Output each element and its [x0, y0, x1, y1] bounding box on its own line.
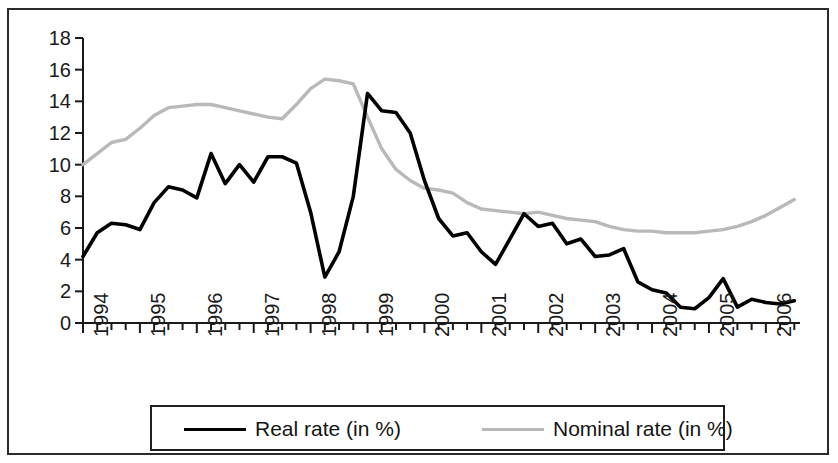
y-axis-tick-label: 0: [37, 313, 71, 333]
legend-line-swatch-nominal-icon: [482, 428, 544, 431]
y-axis-tick-label: 6: [37, 218, 71, 238]
y-axis-tick-label: 14: [37, 91, 71, 111]
y-axis-tick-label: 10: [37, 155, 71, 175]
y-axis-tick-label: 18: [37, 28, 71, 48]
x-axis-tick-label: 2003: [603, 293, 623, 338]
x-axis-tick-label: 1995: [148, 293, 168, 338]
y-axis-tick-label: 8: [37, 186, 71, 206]
chart-legend: Real rate (in %) Nominal rate (in %): [150, 405, 725, 451]
x-axis-tick-label: 1997: [262, 293, 282, 338]
x-axis-tick-label: 2001: [489, 293, 509, 338]
legend-label-nominal-rate: Nominal rate (in %): [553, 417, 733, 441]
y-axis-tick-label: 12: [37, 123, 71, 143]
legend-label-real-rate: Real rate (in %): [255, 417, 401, 441]
figure-frame: [7, 8, 829, 455]
x-axis-tick-label: 2004: [660, 293, 680, 338]
y-axis-tick-label: 4: [37, 250, 71, 270]
legend-entry-nominal-rate: Nominal rate (in %): [482, 415, 733, 443]
x-axis-tick-label: 2005: [717, 293, 737, 338]
y-axis-tick-label: 2: [37, 281, 71, 301]
x-axis-tick-label: 2006: [774, 293, 794, 338]
legend-entry-real-rate: Real rate (in %): [184, 415, 401, 443]
legend-line-swatch-real-icon: [184, 428, 246, 431]
x-axis-tick-label: 2000: [432, 293, 452, 338]
chart-figure: 024681012141618 199419951996199719981999…: [0, 0, 838, 463]
y-axis-tick-label: 16: [37, 60, 71, 80]
x-axis-tick-label: 1994: [91, 293, 111, 338]
x-axis-tick-label: 1998: [319, 293, 339, 338]
x-axis-tick-label: 1996: [205, 293, 225, 338]
x-axis-tick-label: 2002: [546, 293, 566, 338]
x-axis-tick-label: 1999: [376, 293, 396, 338]
